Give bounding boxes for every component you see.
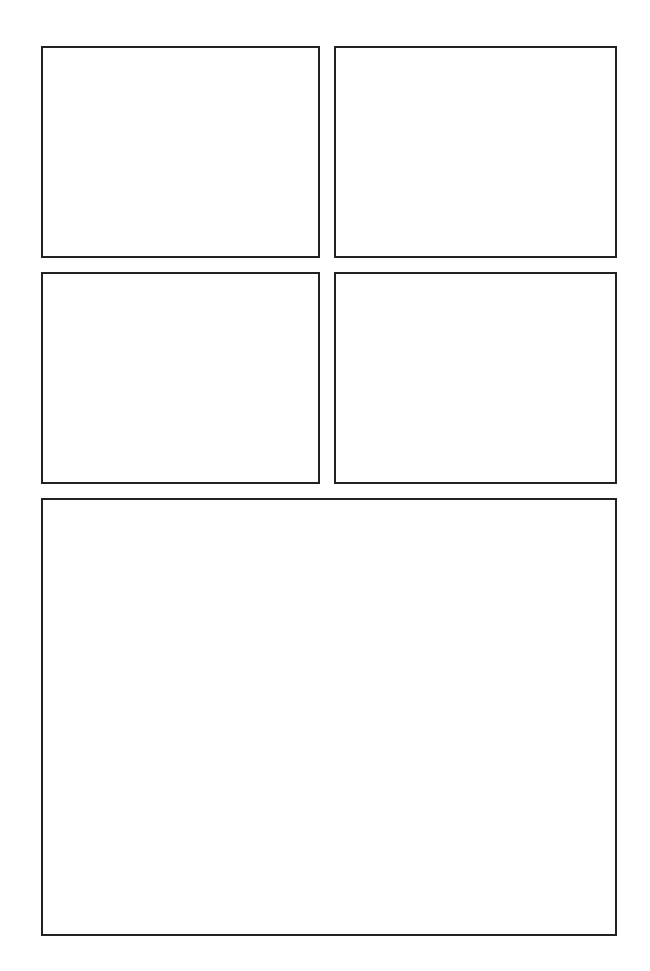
panel-middle-left	[41, 272, 320, 484]
panel-bottom-wide	[41, 498, 617, 936]
panel-top-right	[334, 46, 617, 258]
panel-middle-right	[334, 272, 617, 484]
panel-top-left	[41, 46, 320, 258]
